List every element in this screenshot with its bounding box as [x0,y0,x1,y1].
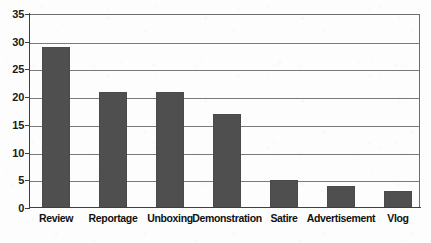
y-tick-label-35: 35 [0,9,24,20]
y-tick-label-10: 10 [0,147,24,158]
x-axis-line [29,207,421,208]
bars-group [29,14,420,208]
bar-satire [270,180,298,208]
bar-reportage [99,92,127,208]
x-tick-label-review: Review [39,212,73,224]
x-tick-label-advertisement: Advertisement [307,212,375,224]
x-tick-label-unboxing: Unboxing [147,212,193,224]
bar-vlog [384,191,412,208]
bar-chart: 35 30 25 20 15 10 5 0 Review Re [0,0,431,243]
x-axis: Review Reportage Unboxing Demonstration … [29,212,420,234]
x-tick-label-satire: Satire [270,212,297,224]
bar-advertisement [327,186,355,208]
x-tick-label-reportage: Reportage [89,212,138,224]
y-tick-label-25: 25 [0,64,24,75]
y-tick-label-15: 15 [0,119,24,130]
y-tick-label-30: 30 [0,36,24,47]
x-tick-label-vlog: Vlog [387,212,408,224]
y-axis: 35 30 25 20 15 10 5 0 [0,0,24,243]
y-tick-label-5: 5 [0,175,24,186]
y-tick-label-0: 0 [0,203,24,214]
bar-demonstration [213,114,241,208]
y-axis-line [29,13,30,209]
y-tick-label-20: 20 [0,92,24,103]
bar-review [42,47,70,208]
bar-unboxing [156,92,184,208]
x-tick-label-demonstration: Demonstration [192,212,262,224]
